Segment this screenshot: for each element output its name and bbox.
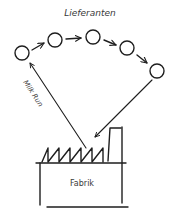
factory: Fabrik xyxy=(36,127,128,207)
factory-sawtooth-roof xyxy=(42,148,103,162)
supplier-node-4 xyxy=(120,41,134,55)
supplier-node-5 xyxy=(150,64,164,78)
supplier-node-1 xyxy=(15,46,29,60)
supplier-node-2 xyxy=(48,33,62,47)
factory-label: Fabrik xyxy=(70,179,94,188)
milk-run-diagram: Lieferanten Milk Run Fabrik xyxy=(0,0,173,215)
arrow-4-to-5 xyxy=(137,55,147,63)
arrow-3-to-4 xyxy=(104,40,116,45)
supplier-node-3 xyxy=(86,30,100,44)
arrow-2-to-3 xyxy=(66,38,81,39)
factory-chimney xyxy=(108,128,121,161)
milk-run-label: Milk Run xyxy=(21,79,44,108)
arrow-1-to-2 xyxy=(32,43,44,50)
arrow-supplier-to-factory xyxy=(95,80,152,137)
suppliers-title: Lieferanten xyxy=(64,8,116,18)
